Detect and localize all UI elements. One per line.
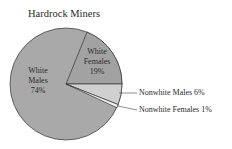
callout-line-nonwhite-females xyxy=(118,106,137,110)
label-nonwhite-females: Nonwhite Females 1% xyxy=(139,105,212,114)
label-white-males: White Males 74% xyxy=(23,66,53,96)
label-white-females: White Females 19% xyxy=(79,47,115,77)
label-nonwhite-males: Nonwhite Males 6% xyxy=(139,88,205,97)
